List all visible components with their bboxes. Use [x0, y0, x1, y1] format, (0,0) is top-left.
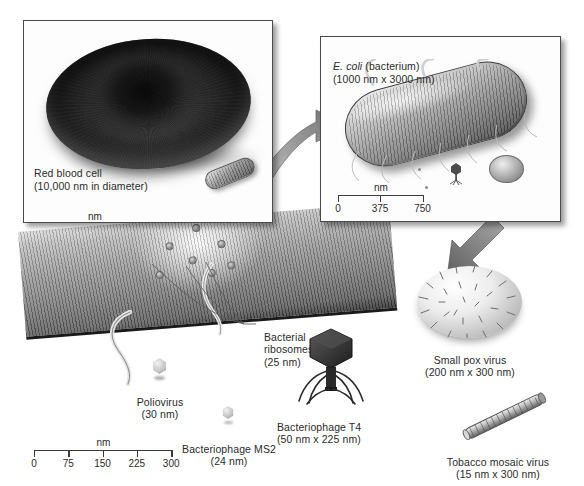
illustration-canvas: Red blood cell (10,000 nm in diameter) n…	[0, 0, 584, 486]
label-bacteriophage-ms2: Bacteriophage MS2 (24 nm)	[168, 430, 290, 480]
ecoli-dimensions: (1000 nm x 3000 nm)	[333, 60, 435, 85]
ms2-label-text: Bacteriophage MS2	[182, 443, 276, 455]
smallpox-label-text: Small pox virus	[434, 354, 507, 366]
inset-smallpox-to-scale	[489, 155, 524, 183]
label-tobacco-mosaic-virus: Tobacco mosaic virus (15 nm x 300 nm)	[418, 443, 578, 486]
label-smallpox-virus: Small pox virus (200 nm x 300 nm)	[405, 341, 535, 391]
poliovirus-dimensions: (30 nm)	[110, 408, 210, 421]
main-scale-rule	[34, 450, 173, 457]
bacteriophage-ms2-illustration	[222, 406, 234, 419]
smallpox-dimensions: (200 nm x 300 nm)	[405, 366, 535, 379]
tmv-dimensions: (15 nm x 300 nm)	[418, 468, 578, 481]
ecoli-panel: E. coli (bacterium) (1000 nm x 3000 nm) …	[320, 36, 561, 222]
inset-ms2-to-scale	[425, 186, 428, 189]
tobacco-mosaic-virus-illustration	[452, 392, 556, 440]
label-poliovirus: Poliovirus (30 nm)	[110, 383, 210, 433]
ms2-dimensions: (24 nm)	[168, 455, 290, 468]
smallpox-virus-illustration	[417, 266, 522, 338]
smallpox-surface-tubules	[417, 266, 522, 338]
tmv-label-text: Tobacco mosaic virus	[447, 456, 549, 468]
leader-lines-ribosomes	[148, 262, 258, 334]
t4-dimensions: (50 nm x 225 nm)	[277, 433, 361, 446]
red-blood-cell-panel: Red blood cell (10,000 nm in diameter) n…	[23, 20, 273, 223]
bacteriophage-t4-illustration	[296, 327, 366, 405]
rbc-label: Red blood cell	[34, 167, 102, 180]
poliovirus-label-text: Poliovirus	[137, 396, 184, 408]
rbc-label-text: Red blood cell	[34, 167, 102, 179]
label-bacteriophage-t4: Bacteriophage T4 (50 nm x 225 nm)	[277, 408, 361, 458]
ecoli-scale-unit: nm	[338, 182, 424, 193]
main-scale-unit: nm	[34, 437, 173, 448]
rbc-dimensions: (10,000 nm in diameter)	[34, 180, 148, 193]
rbc-scale-unit: nm	[57, 211, 133, 222]
inset-phage-t4-to-scale	[449, 163, 463, 185]
ecoli-scale-rule	[338, 195, 424, 202]
inset-poliovirus-to-scale	[418, 168, 421, 171]
ms2-shadow	[224, 421, 233, 424]
t4-label-text: Bacteriophage T4	[277, 421, 361, 433]
